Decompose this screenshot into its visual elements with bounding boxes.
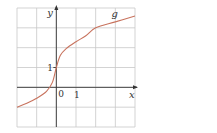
x-tick-1: 1 — [74, 90, 80, 100]
x-axis-label: x — [129, 89, 135, 100]
y-axis-label: y — [46, 7, 53, 18]
axes — [17, 5, 138, 127]
function-graph: y x g 0 1 1 — [0, 0, 217, 133]
curve-label-g: g — [111, 8, 117, 19]
grid-lines — [17, 8, 135, 127]
origin-label: 0 — [58, 89, 64, 99]
y-tick-1: 1 — [47, 63, 53, 73]
